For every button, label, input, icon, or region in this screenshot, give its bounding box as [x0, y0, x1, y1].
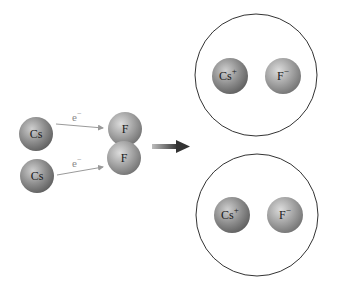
electron-label-bottom: e−: [72, 155, 82, 169]
electron-arrow-top-icon: [56, 124, 103, 128]
products: Cs+ F− Cs+ F−: [195, 14, 318, 276]
electron-transfer-top: e−: [56, 109, 103, 128]
electron-arrow-bottom-icon: [57, 167, 103, 175]
cs-atom-top: Cs: [19, 117, 53, 151]
ionic-bond-diagram: Cs Cs F F e− e−: [0, 0, 340, 292]
electron-label-top: e−: [72, 109, 82, 123]
ion-pair-top: Cs+ F−: [195, 14, 317, 136]
f-atom-top: F: [108, 112, 142, 146]
f-atom-bottom-label: F: [121, 151, 128, 165]
cs-atom-top-label: Cs: [30, 127, 43, 141]
ion-pair-bottom: Cs+ F−: [196, 154, 318, 276]
f-anion-bottom: F−: [267, 197, 303, 233]
f-atom-top-label: F: [122, 122, 129, 136]
electron-transfer-bottom: e−: [57, 155, 103, 175]
cs-atom-bottom: Cs: [20, 159, 54, 193]
f-atom-bottom: F: [107, 141, 141, 175]
reaction-arrow-icon: [152, 140, 190, 153]
cs-cation-top: Cs+: [212, 58, 248, 94]
cs-cation-bottom: Cs+: [214, 197, 250, 233]
f-anion-top: F−: [265, 58, 301, 94]
reactants: Cs Cs F F e− e−: [19, 109, 142, 193]
cs-atom-bottom-label: Cs: [31, 169, 44, 183]
